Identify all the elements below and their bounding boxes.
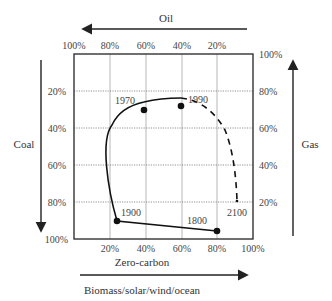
svg-text:2100: 2100 [227,207,247,218]
left-tick-labels: 20% 40% 60% 80% 100% [45,86,68,245]
svg-text:60%: 60% [173,243,191,254]
svg-text:1990: 1990 [188,94,208,105]
svg-text:1900: 1900 [121,207,141,218]
right-tick-labels: 100% 80% 60% 40% 20% [259,49,282,208]
svg-text:20%: 20% [259,197,277,208]
energy-transition-chart: Oil 100% 80% 60% 40% 20% Coal 20% 40% 60… [0,0,332,301]
year-labels: 1970 1990 1900 1800 2100 [115,94,247,226]
svg-text:60%: 60% [48,160,66,171]
renewables-label: Biomass/solar/wind/ocean [84,284,201,296]
svg-text:100%: 100% [259,49,282,60]
svg-text:1970: 1970 [115,95,135,106]
svg-text:80%: 80% [101,40,119,51]
projected-trajectory [181,98,237,200]
svg-text:80%: 80% [259,86,277,97]
point-1900 [114,218,121,225]
point-1990 [178,103,185,110]
svg-text:100%: 100% [45,234,68,245]
svg-text:60%: 60% [259,123,277,134]
coal-axis-title: Coal [14,138,35,150]
zero-carbon-axis-title: Zero-carbon [115,256,170,268]
gas-axis-title: Gas [301,138,318,150]
oil-axis-title: Oil [159,12,173,24]
svg-text:40%: 40% [259,160,277,171]
svg-text:1800: 1800 [187,215,207,226]
top-tick-labels: 100% 80% 60% 40% 20% [62,40,226,51]
svg-text:40%: 40% [137,243,155,254]
svg-text:40%: 40% [173,40,191,51]
bottom-tick-labels: 20% 40% 60% 80% 100% [101,243,265,254]
svg-text:20%: 20% [101,243,119,254]
svg-text:100%: 100% [62,40,85,51]
point-2100 [236,200,239,203]
point-1970 [141,107,148,114]
svg-text:80%: 80% [48,197,66,208]
svg-text:60%: 60% [137,40,155,51]
svg-text:80%: 80% [208,243,226,254]
svg-text:40%: 40% [48,123,66,134]
svg-text:20%: 20% [48,86,66,97]
grid-lines-horizontal [74,91,253,202]
point-1800 [214,228,221,235]
svg-text:100%: 100% [241,243,264,254]
svg-text:20%: 20% [208,40,226,51]
